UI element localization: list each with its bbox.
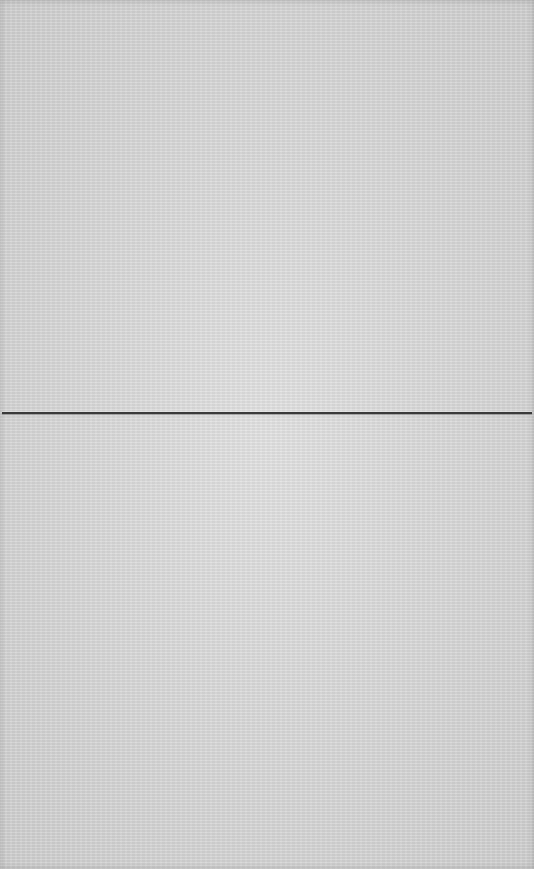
blank-paper-sheet <box>0 0 534 869</box>
fold-line <box>2 412 532 414</box>
